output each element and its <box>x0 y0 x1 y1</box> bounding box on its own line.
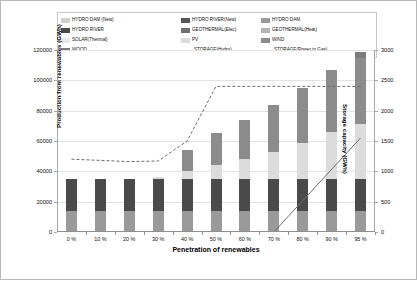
x-axis-label: 40 % <box>173 236 201 243</box>
y-axis-right-label: 2500 <box>381 77 411 83</box>
legend-swatch-icon <box>261 38 270 43</box>
x-axis-label: 30 % <box>144 236 172 243</box>
x-axis-label: 20 % <box>115 236 143 243</box>
x-axis-label: 80 % <box>289 236 317 243</box>
x-axis-tick <box>115 232 116 235</box>
y-axis-right-label: 1000 <box>381 168 411 174</box>
legend-item-label: GEOTHERMAL(Heat) <box>272 27 317 33</box>
legend-item-label: HYDRO DAM (New) <box>72 17 114 23</box>
y-axis-tick <box>54 141 57 142</box>
x-axis-tick <box>173 232 174 235</box>
x-axis-label: 95 % <box>347 236 375 243</box>
y-axis-right-label: 500 <box>381 199 411 205</box>
line-series <box>72 86 361 161</box>
legend-swatch-icon <box>261 28 270 33</box>
legend-item-label: HYDRO DAM <box>272 17 300 23</box>
legend-swatch-icon <box>181 28 190 33</box>
y-axis-tick <box>54 232 57 233</box>
legend-item[interactable]: GEOTHERMAL(Elec) <box>181 25 261 35</box>
y-axis-right-label: 1500 <box>381 138 411 144</box>
legend-item-label: HYDRO RIVER(New) <box>192 17 236 23</box>
y-axis-right-label: 3000 <box>381 47 411 53</box>
x-axis-tick <box>202 232 203 235</box>
x-axis <box>57 231 375 232</box>
x-axis-tick <box>230 232 231 235</box>
legend-item-label: WIND <box>272 37 284 43</box>
legend-item[interactable]: HYDRO RIVER(New) <box>181 15 261 25</box>
y-axis-left-label: 40000 <box>18 168 52 174</box>
y-axis-right-title: Storage capacity (GWh) <box>342 104 349 174</box>
y-axis-left-label: 80000 <box>18 108 52 114</box>
x-axis-tick <box>317 232 318 235</box>
y-axis-secondary-tick <box>375 171 378 172</box>
y-axis-secondary-tick <box>375 80 378 81</box>
y-axis-right-label: 2000 <box>381 108 411 114</box>
legend-swatch-icon <box>261 18 270 23</box>
legend-swatch-icon <box>61 38 70 43</box>
x-axis-tick <box>375 232 376 235</box>
legend-item[interactable]: GEOTHERMAL(Heat) <box>261 25 381 35</box>
x-axis-title: Penetration of renewables <box>57 246 375 253</box>
x-axis-tick <box>288 232 289 235</box>
y-axis-left-label: 120000 <box>18 47 52 53</box>
y-axis-left-label: 20000 <box>18 199 52 205</box>
line-series-layer <box>57 50 375 232</box>
plot-area: 020000400006000080000100000120000 050010… <box>57 50 375 232</box>
y-axis-left-label: 0 <box>18 229 52 235</box>
x-axis-tick <box>259 232 260 235</box>
legend-item[interactable]: HYDRO RIVER <box>61 25 181 35</box>
y-axis-left-title: Production from renewables (GWh) <box>55 24 62 128</box>
x-axis-tick <box>144 232 145 235</box>
y-axis-secondary-tick <box>375 111 378 112</box>
y-axis-secondary-tick <box>375 141 378 142</box>
legend-item-label: HYDRO RIVER <box>72 27 104 33</box>
y-axis-secondary-tick <box>375 50 378 51</box>
y-axis-tick <box>54 171 57 172</box>
legend-swatch-icon <box>61 18 70 23</box>
x-axis-label: 90 % <box>318 236 346 243</box>
chart-container: HYDRO DAM (New)HYDRO RIVER(New)HYDRO DAM… <box>0 0 418 281</box>
legend-swatch-icon <box>181 38 190 43</box>
legend-item[interactable]: HYDRO DAM (New) <box>61 15 181 25</box>
legend-item[interactable]: WIND <box>261 35 381 45</box>
x-axis-label: 0 % <box>57 236 85 243</box>
legend-grid: HYDRO DAM (New)HYDRO RIVER(New)HYDRO DAM… <box>61 15 373 55</box>
x-axis-label: 50 % <box>202 236 230 243</box>
legend-swatch-icon <box>61 28 70 33</box>
y-axis-left-label: 60000 <box>18 138 52 144</box>
legend-item[interactable]: SOLAR(Thermal) <box>61 35 181 45</box>
legend-item-label: PV <box>192 37 198 43</box>
x-axis-label: 60 % <box>231 236 259 243</box>
legend-item[interactable]: PV <box>181 35 261 45</box>
legend-item-label: GEOTHERMAL(Elec) <box>192 27 236 33</box>
x-axis-label: 10 % <box>86 236 114 243</box>
x-axis-tick <box>346 232 347 235</box>
y-axis-right-label: 0 <box>381 229 411 235</box>
legend-swatch-icon <box>181 18 190 23</box>
legend-item-label: SOLAR(Thermal) <box>72 37 107 43</box>
x-axis-tick <box>86 232 87 235</box>
y-axis-left-label: 100000 <box>18 77 52 83</box>
legend-item[interactable]: HYDRO DAM <box>261 15 381 25</box>
y-axis-tick <box>54 202 57 203</box>
x-axis-label: 70 % <box>260 236 288 243</box>
y-axis-secondary-tick <box>375 202 378 203</box>
